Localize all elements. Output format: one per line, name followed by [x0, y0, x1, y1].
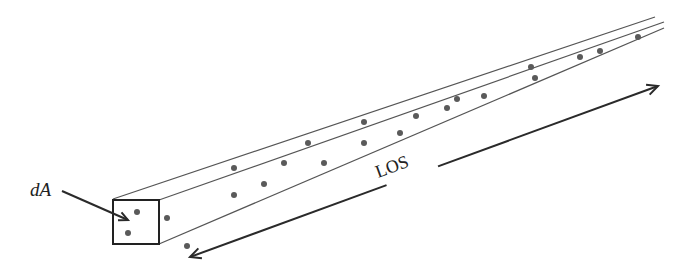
particle-dot: [164, 215, 170, 221]
dA-arrow-shaft: [62, 191, 128, 220]
column-edges: [113, 17, 664, 244]
particle-dot: [577, 54, 583, 60]
particle-dot: [361, 140, 367, 146]
particle-dot: [481, 93, 487, 99]
particle-dot: [184, 243, 190, 249]
los-arrow-shaft-left: [190, 185, 387, 257]
los-arrow-shaft-right: [438, 86, 658, 166]
particle-dot: [528, 64, 534, 70]
front-face-box-dA: [113, 200, 159, 244]
particles: [125, 34, 641, 249]
los-column-diagram: dA LOS: [0, 0, 691, 279]
particle-dot: [261, 181, 267, 187]
particle-dot: [281, 160, 287, 166]
dA-pointer-arrow: [62, 191, 128, 220]
particle-dot: [532, 75, 538, 81]
particle-dot: [134, 209, 140, 215]
particle-dot: [305, 140, 311, 146]
column-edge-line: [159, 28, 664, 244]
dA-label: dA: [30, 179, 52, 200]
particle-dot: [361, 119, 367, 125]
particle-dot: [397, 130, 403, 136]
particle-dot: [125, 230, 131, 236]
particle-dot: [635, 34, 641, 40]
particle-dot: [454, 96, 460, 102]
particle-dot: [597, 48, 603, 54]
los-label: LOS: [373, 151, 412, 181]
particle-dot: [231, 165, 237, 171]
los-arrow: [190, 85, 658, 258]
particle-dot: [444, 105, 450, 111]
particle-dot: [413, 113, 419, 119]
particle-dot: [321, 160, 327, 166]
particle-dot: [231, 192, 237, 198]
